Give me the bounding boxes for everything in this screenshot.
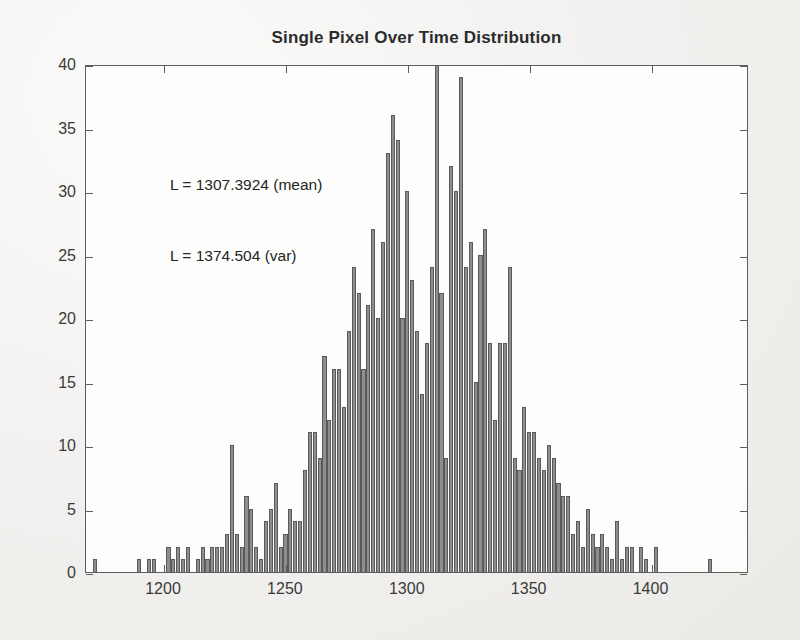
histogram-bar: [644, 559, 648, 572]
histogram-bar: [376, 318, 380, 572]
y-axis-tick: [86, 574, 93, 575]
histogram-bar: [274, 483, 278, 572]
y-axis-tick-label: 10: [18, 437, 76, 455]
histogram-bar: [444, 458, 448, 572]
plot-axes: [85, 65, 748, 573]
histogram-bar: [303, 470, 307, 572]
histogram-bar: [415, 331, 419, 572]
y-axis-tick: [86, 257, 93, 258]
histogram-bar: [420, 394, 424, 572]
histogram-bar: [600, 534, 604, 572]
histogram-bar: [366, 305, 370, 572]
histogram-bar: [469, 242, 473, 572]
histogram-bar: [298, 521, 302, 572]
y-axis-tick: [740, 320, 747, 321]
y-axis-tick: [740, 511, 747, 512]
histogram-bar: [625, 547, 629, 572]
y-axis-tick: [86, 320, 93, 321]
histogram-bar: [137, 559, 141, 572]
histogram-bar: [639, 547, 643, 572]
histogram-bar: [425, 343, 429, 572]
x-axis-tick: [286, 565, 287, 572]
y-axis-tick: [86, 193, 93, 194]
histogram-bar: [371, 229, 375, 572]
y-axis-tick-label: 30: [18, 183, 76, 201]
histogram-bar: [527, 432, 531, 572]
histogram-bar: [332, 369, 336, 572]
histogram-bar: [244, 496, 248, 572]
histogram-bar: [449, 166, 453, 572]
y-axis-tick-label: 20: [18, 310, 76, 328]
x-axis-tick: [164, 565, 165, 572]
histogram-bar: [361, 369, 365, 572]
histogram-bar: [400, 318, 404, 572]
histogram-bar: [410, 280, 414, 572]
histogram-bar: [620, 559, 624, 572]
histogram-bar: [254, 547, 258, 572]
y-axis-tick: [740, 66, 747, 67]
histogram-bar: [171, 559, 175, 572]
histogram-bar: [322, 356, 326, 572]
histogram-bar: [264, 521, 268, 572]
histogram-bar: [230, 445, 234, 572]
histogram-bar: [342, 407, 346, 572]
histogram-bar: [225, 534, 229, 572]
histogram-bar: [459, 77, 463, 572]
y-axis-tick: [86, 66, 93, 67]
histogram-bar: [454, 191, 458, 572]
y-axis-tick-label: 0: [18, 564, 76, 582]
histogram-bar: [522, 407, 526, 572]
histogram-bar: [517, 470, 521, 572]
histogram-bar: [478, 255, 482, 573]
histogram-bar: [181, 559, 185, 572]
histogram-bar: [556, 483, 560, 572]
histogram-bar: [205, 559, 209, 572]
histogram-bar: [654, 547, 658, 572]
histogram-bar: [537, 458, 541, 572]
histogram-bar: [186, 547, 190, 572]
histogram-bar: [240, 547, 244, 572]
histogram-bar: [337, 369, 341, 572]
y-axis-tick: [86, 384, 93, 385]
x-axis-tick: [408, 66, 409, 73]
histogram-bar: [176, 547, 180, 572]
histogram-bar: [235, 534, 239, 572]
histogram-bar: [430, 267, 434, 572]
histogram-bar: [152, 559, 156, 572]
histogram-bar: [308, 432, 312, 572]
y-axis-tick-label: 40: [18, 56, 76, 74]
histogram-bar: [318, 458, 322, 572]
annotation-mean: L = 1307.3924 (mean): [170, 176, 322, 194]
histogram-bar: [147, 559, 151, 572]
histogram-bar: [615, 521, 619, 572]
histogram-bar: [630, 547, 634, 572]
x-axis-tick-label: 1250: [267, 580, 303, 598]
y-axis-tick-label: 5: [18, 501, 76, 519]
histogram-bar: [93, 559, 97, 572]
histogram-bar: [381, 242, 385, 572]
histogram-bar: [313, 432, 317, 572]
x-axis-tick-label: 1400: [633, 580, 669, 598]
y-axis-tick-label: 35: [18, 120, 76, 138]
histogram-bar: [405, 191, 409, 572]
histogram-bar: [483, 229, 487, 572]
histogram-bar: [327, 420, 331, 572]
histogram-bar: [166, 547, 170, 572]
histogram-bar: [196, 559, 200, 572]
y-axis-tick: [740, 257, 747, 258]
histogram-bar: [498, 343, 502, 572]
histogram-bar: [513, 458, 517, 572]
x-axis-tick: [164, 66, 165, 73]
histogram-bar: [293, 521, 297, 572]
histogram-bar: [508, 267, 512, 572]
histogram-bar: [605, 547, 609, 572]
page-title: Single Pixel Over Time Distribution: [85, 28, 748, 48]
histogram-bar: [542, 470, 546, 572]
histogram-bar: [576, 521, 580, 572]
histogram-bar: [532, 432, 536, 572]
histogram-bar: [503, 343, 507, 572]
x-axis-tick-label: 1350: [511, 580, 547, 598]
histogram-bar: [474, 382, 478, 573]
histogram-bar: [279, 547, 283, 572]
histogram-bar: [259, 559, 263, 572]
